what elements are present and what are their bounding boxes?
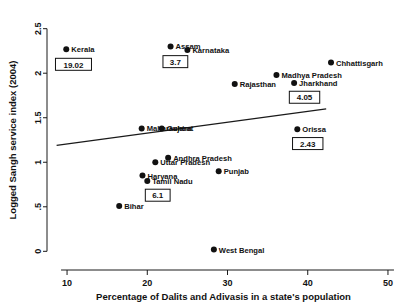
y-tick-label-2: 1 (33, 160, 43, 165)
data-point: Punjab (216, 167, 250, 176)
point-marker-bihar (116, 203, 122, 209)
callout-orissa-value: 2.43 (300, 140, 316, 149)
data-point: West Bengal (211, 246, 264, 255)
point-label-rajasthan: Rajasthan (240, 80, 277, 89)
y-tick-label-3: 1.5 (33, 111, 43, 124)
point-marker-chhattisgarh (328, 60, 334, 66)
point-marker-jharkhand (291, 80, 297, 86)
point-marker-orissa (294, 126, 300, 132)
callout-orissa: 2.43 (293, 138, 323, 150)
callout-tamil-nadu-value: 6.1 (152, 191, 164, 200)
x-tick-label-4: 50 (383, 278, 393, 288)
point-label-karnataka: Karnataka (192, 46, 229, 55)
scatter-plot: 0.511.522.51020304050 KeralaAssamKarnata… (0, 0, 415, 306)
point-label-kerala: Kerala (71, 45, 95, 54)
callout-assam: 3.7 (163, 56, 188, 68)
point-marker-haryana (139, 173, 145, 179)
point-label-gujarat: Gujarat (167, 124, 194, 133)
x-tick-label-2: 30 (223, 278, 233, 288)
point-marker-karnataka (184, 47, 190, 53)
point-label-tamil-nadu: Tamil Nadu (152, 177, 193, 186)
data-point: Rajasthan (232, 80, 277, 89)
x-tick-label-3: 40 (303, 278, 313, 288)
callout-jharkhand-value: 4.05 (297, 93, 313, 102)
point-label-bihar: Bihar (124, 202, 143, 211)
data-point: Jharkhand (291, 79, 338, 88)
data-point: Kerala (63, 45, 95, 54)
point-marker-rajasthan (232, 81, 238, 87)
data-point: Tamil Nadu (144, 177, 193, 186)
point-label-chhattisgarh: Chhattisgarh (336, 59, 383, 68)
point-marker-punjab (216, 168, 222, 174)
point-label-west-bengal: West Bengal (219, 246, 264, 255)
x-axis-title: Percentage of Dalits and Adivasis in a s… (96, 291, 351, 302)
point-marker-west-bengal (211, 247, 217, 253)
y-tick-label-0: 0 (33, 249, 43, 254)
data-points-layer: KeralaAssamKarnatakaChhattisgarhMadhya P… (63, 42, 383, 254)
y-tick-label-5: 2.5 (33, 22, 43, 35)
point-marker-maharashtra (139, 125, 145, 131)
callout-jharkhand: 4.05 (289, 91, 319, 103)
data-point: Bihar (116, 202, 143, 211)
callout-kerala: 19.02 (55, 58, 91, 70)
point-label-uttar-pradesh: Uttar Pradesh (160, 158, 210, 167)
callout-assam-value: 3.7 (170, 58, 182, 67)
x-tick-label-0: 10 (62, 278, 72, 288)
point-marker-kerala (63, 46, 69, 52)
y-axis-title: Logged Sangh service index (2004) (7, 61, 18, 220)
data-point: Orissa (294, 125, 326, 134)
point-marker-uttar-pradesh (152, 159, 158, 165)
point-label-jharkhand: Jharkhand (299, 79, 338, 88)
point-marker-madhya-pradesh (273, 72, 279, 78)
point-label-orissa: Orissa (302, 125, 326, 134)
y-tick-label-4: 2 (33, 71, 43, 76)
x-tick-label-1: 20 (142, 278, 152, 288)
data-point: Chhattisgarh (328, 59, 383, 68)
point-label-punjab: Punjab (224, 167, 250, 176)
point-marker-tamil-nadu (144, 178, 150, 184)
point-marker-gujarat (159, 125, 165, 131)
point-marker-assam (168, 43, 174, 49)
callout-tamil-nadu: 6.1 (145, 189, 170, 201)
y-tick-label-1: .5 (33, 203, 43, 211)
data-point: Uttar Pradesh (152, 158, 210, 167)
chart-container: 0.511.522.51020304050 KeralaAssamKarnata… (0, 0, 415, 306)
callout-kerala-value: 19.02 (63, 61, 84, 70)
